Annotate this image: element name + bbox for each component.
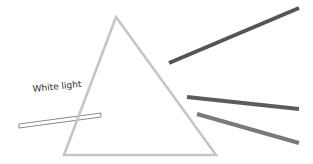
white-light-label: White light [32,79,82,94]
ray-bottom [197,114,299,143]
white-light-beam [19,113,101,128]
ray-middle [187,97,299,109]
ray-top [169,8,299,63]
prism-diagram: White light [0,0,313,164]
prism-triangle [64,17,216,155]
